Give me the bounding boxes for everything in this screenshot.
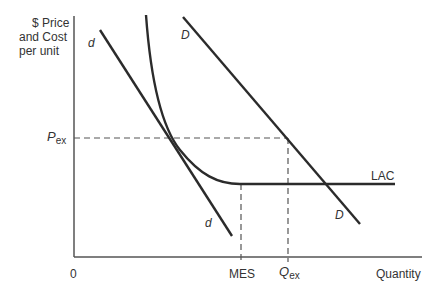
d-bottom-label: d	[205, 216, 212, 230]
qex-main: Q	[279, 264, 289, 279]
y-axis-label-line2: and Cost	[19, 30, 67, 44]
firm-demand-d-line	[100, 30, 232, 236]
d-top-label: d	[88, 36, 95, 50]
market-demand-D-line	[183, 17, 360, 224]
D-bottom-label: D	[335, 208, 344, 222]
diagram-canvas	[0, 0, 447, 292]
lac-label: LAC	[371, 169, 394, 183]
pex-sub: ex	[56, 135, 67, 146]
pex-main: P	[47, 129, 56, 144]
D-top-label: D	[181, 28, 190, 42]
origin-label: 0	[70, 267, 77, 281]
pex-tick-label: Pex	[47, 130, 66, 145]
y-axis-label-line3: per unit	[19, 44, 59, 58]
y-axis-label-line1: $ Price	[32, 16, 69, 30]
mes-tick-label: MES	[229, 267, 255, 281]
x-axis-label: Quantity	[376, 267, 421, 281]
qex-tick-label: Qex	[279, 265, 300, 280]
qex-sub: ex	[289, 270, 300, 281]
